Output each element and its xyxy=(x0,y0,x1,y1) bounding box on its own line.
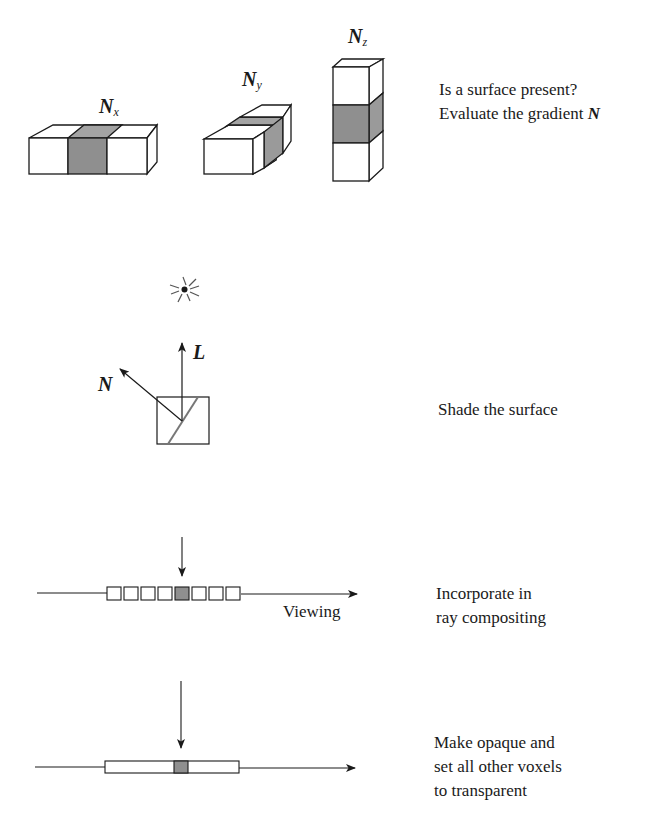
step-opaque-text: Make opaque and set all other voxels to … xyxy=(434,731,562,803)
nz-voxel-block xyxy=(333,59,383,181)
step-gradient-text: Is a surface present? Evaluate the gradi… xyxy=(439,78,600,126)
ny-voxel-block xyxy=(204,105,291,174)
ny-label: Ny xyxy=(242,68,262,93)
nx-label: Nx xyxy=(99,95,119,120)
light-vector-label: L xyxy=(193,341,205,364)
gradient-symbol: N xyxy=(588,104,600,123)
opaque-ray xyxy=(35,681,355,773)
step-shade-text: Shade the surface xyxy=(438,398,558,422)
highlighted-voxel xyxy=(175,587,189,600)
nz-label: Nz xyxy=(348,25,367,50)
normal-vector-label: N xyxy=(98,373,112,396)
nx-voxel-block xyxy=(29,125,157,174)
compositing-ray xyxy=(37,537,357,600)
step-composite-text: Incorporate in ray compositing xyxy=(436,582,546,630)
normal-vector-arrow xyxy=(120,369,182,421)
light-source-icon xyxy=(170,277,199,302)
viewing-label: Viewing xyxy=(283,600,341,624)
opaque-voxel xyxy=(174,761,188,773)
